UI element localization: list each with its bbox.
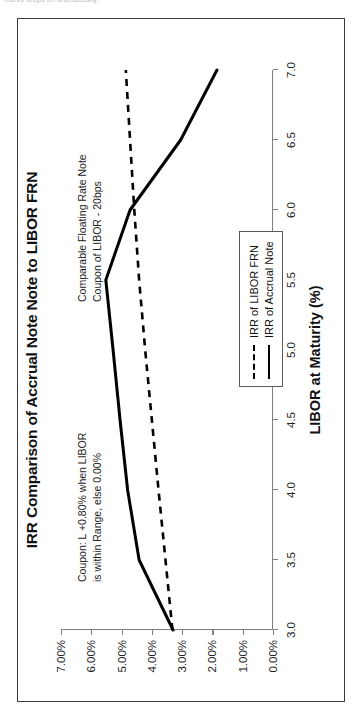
line-irr-libor-frn	[126, 70, 173, 630]
x-tick	[273, 489, 278, 490]
x-tick	[273, 419, 278, 420]
legend-label-accrual: IRR of Accrual Note	[263, 241, 275, 338]
line-irr-accrual-note	[106, 70, 217, 630]
y-tick-label: 1.00%	[237, 640, 249, 673]
legend-label-frn: IRR of LIBOR FRN	[248, 245, 260, 338]
legend-item-accrual: IRR of Accrual Note	[261, 241, 276, 379]
y-tick-label: 7.00%	[55, 640, 67, 673]
y-tick	[122, 630, 123, 635]
y-tick	[61, 630, 62, 635]
x-tick-label: 5.0	[285, 342, 297, 358]
y-tick-label: 3.00%	[176, 640, 188, 673]
x-tick-label: 4.5	[285, 412, 297, 428]
x-tick-label: 3.0	[285, 622, 297, 638]
x-tick	[273, 209, 278, 210]
x-tick-label: 4.0	[285, 482, 297, 498]
y-tick-label: 2.00%	[206, 640, 218, 673]
plot-area: 3.03.54.04.55.05.56.06.57.0 0.00%1.00%2.…	[61, 70, 273, 630]
y-tick	[182, 630, 183, 635]
y-tick	[273, 630, 274, 635]
y-tick-label: 6.00%	[85, 640, 97, 673]
clipped-page-text: marks drops on dramatically.	[4, 0, 154, 3]
chart-figure: IRR Comparison of Accrual Note Note to L…	[17, 18, 345, 702]
y-tick	[91, 630, 92, 635]
x-tick-label: 3.5	[285, 552, 297, 568]
y-tick-label: 4.00%	[146, 640, 158, 673]
solid-line-swatch-icon	[268, 345, 270, 379]
y-tick	[243, 630, 244, 635]
y-tick-label: 5.00%	[116, 640, 128, 673]
chart-title: IRR Comparison of Accrual Note Note to L…	[23, 18, 41, 702]
y-tick	[212, 630, 213, 635]
chart-legend: IRR of LIBOR FRN IRR of Accrual Note	[239, 231, 283, 387]
y-tick	[152, 630, 153, 635]
dashed-line-swatch-icon	[253, 345, 255, 379]
x-tick	[273, 69, 278, 70]
x-tick	[273, 139, 278, 140]
y-tick-label: 0.00%	[267, 640, 279, 673]
x-tick-label: 7.0	[285, 62, 297, 78]
x-axis-title: LIBOR at Maturity (%)	[307, 18, 323, 702]
legend-item-frn: IRR of LIBOR FRN	[246, 241, 261, 379]
x-tick-label: 6.5	[285, 132, 297, 148]
x-tick-label: 6.0	[285, 202, 297, 218]
x-tick	[273, 559, 278, 560]
rotated-figure-wrapper: IRR Comparison of Accrual Note Note to L…	[17, 18, 345, 702]
x-tick-label: 5.5	[285, 272, 297, 288]
